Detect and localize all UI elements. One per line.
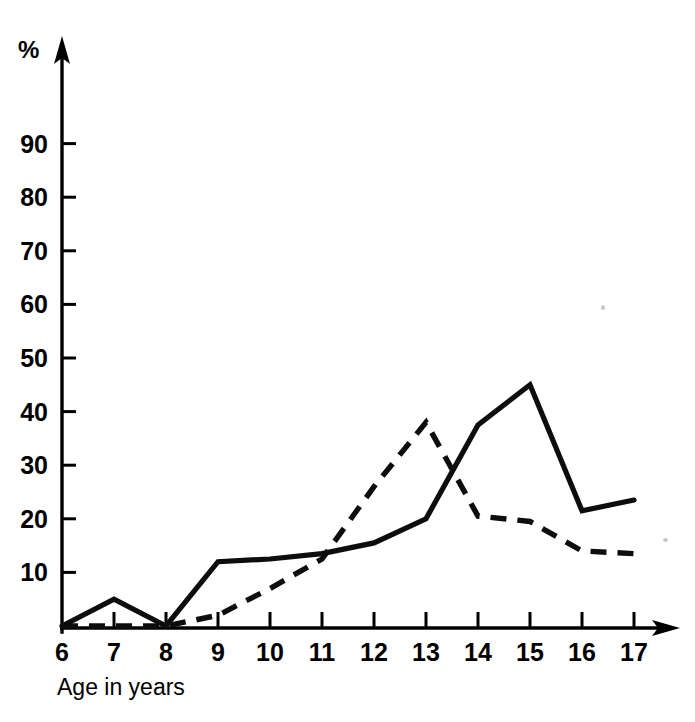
- x-tick-label: 17: [620, 638, 648, 666]
- y-tick-label: 30: [20, 451, 48, 479]
- y-tick-label: 60: [20, 290, 48, 318]
- x-tick-label: 8: [159, 638, 173, 666]
- x-tick-label: 11: [309, 638, 336, 666]
- scan-speck: [601, 305, 605, 310]
- x-tick-label: 16: [568, 638, 596, 666]
- plot-area: 102030405060708090 67891011121314151617: [0, 0, 695, 722]
- x-tick-label: 6: [55, 638, 69, 666]
- y-tick-label: 80: [20, 183, 48, 211]
- y-tick-label: 20: [20, 505, 48, 533]
- x-tick-marks: [114, 612, 634, 628]
- x-tick-label: 9: [211, 638, 225, 666]
- x-tick-label: 7: [107, 638, 121, 666]
- y-tick-label: 90: [20, 130, 48, 158]
- y-tick-label: 70: [20, 237, 48, 265]
- x-tick-label: 12: [360, 638, 388, 666]
- y-tick-marks: [62, 144, 76, 573]
- y-tick-label: 10: [20, 558, 48, 586]
- x-tick-labels: 67891011121314151617: [55, 638, 648, 666]
- x-tick-label: 14: [464, 638, 492, 666]
- x-tick-label: 10: [256, 638, 284, 666]
- x-tick-label: 13: [412, 638, 440, 666]
- data-line-dashed: [62, 422, 634, 626]
- y-tick-labels: 102030405060708090: [20, 130, 48, 587]
- line-chart-figure: % 102030405060708090 6789101112131415161…: [0, 0, 695, 722]
- x-tick-label: 15: [516, 638, 544, 666]
- scan-speck: [663, 538, 668, 542]
- x-axis-title: Age in years: [57, 676, 185, 699]
- x-axis-group: 67891011121314151617: [55, 612, 680, 666]
- y-tick-label: 40: [20, 398, 48, 426]
- y-axis-group: 102030405060708090: [20, 36, 76, 632]
- y-tick-label: 50: [20, 344, 48, 372]
- data-line-solid: [62, 385, 634, 626]
